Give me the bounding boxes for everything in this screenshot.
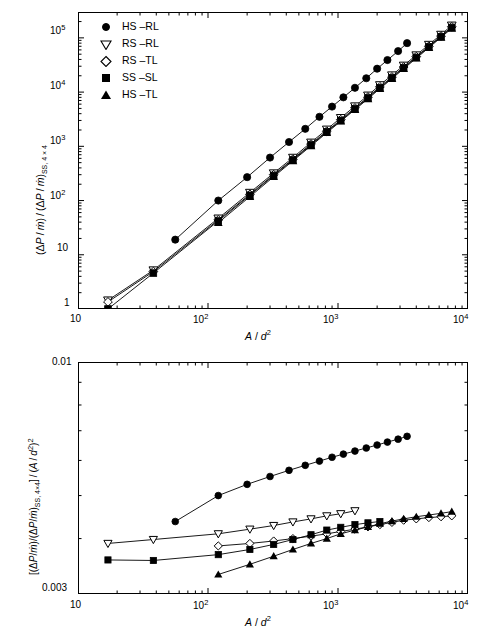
series-SSSL — [105, 518, 383, 563]
bottom-xtick-0: 10 — [70, 600, 81, 610]
legend-label-3: SS –SL — [122, 71, 158, 83]
filled-circle-icon — [100, 21, 112, 33]
bottom-xtick-2: 103 — [323, 598, 338, 611]
legend-label-0: HS –RL — [122, 20, 159, 32]
legend-row-2: RS –TL — [100, 52, 210, 69]
top-xtick-3: 104 — [453, 312, 468, 325]
bottom-xtick-1: 102 — [193, 598, 208, 611]
open-diamond-icon — [100, 55, 112, 67]
bottom-plot-svg — [78, 362, 468, 594]
bottom-yaxis-label: [(ΔP/ṁ)/(ΔP/ṁ)SS, 4×4] / (A / d2)2 — [26, 438, 41, 575]
top-ytick-5: 105 — [50, 23, 65, 36]
open-triangle-down-icon — [100, 38, 112, 50]
bottom-xtick-3: 104 — [453, 598, 468, 611]
series-RSRL — [104, 508, 359, 548]
top-yaxis-label: (ΔP / ṁ) / (ΔP / ṁ)SS, 4 × 4 — [34, 145, 48, 255]
bottom-panel: 10 102 103 104 0.003 0.01 A / d2 [(ΔP/ṁ)… — [0, 350, 495, 644]
top-ytick-2: 102 — [50, 188, 65, 201]
top-ytick-3: 103 — [50, 133, 65, 146]
top-ytick-0: 1 — [64, 298, 70, 308]
top-ytick-4: 104 — [50, 78, 65, 91]
top-xtick-2: 103 — [323, 312, 338, 325]
legend-row-3: SS –SL — [100, 69, 210, 86]
top-panel: 10 102 103 104 1 10 102 103 104 105 A / … — [0, 0, 495, 340]
top-ytick-1: 10 — [57, 243, 68, 253]
bottom-xaxis-label: A / d2 — [245, 614, 271, 628]
legend-row-0: HS –RL — [100, 18, 210, 35]
top-xtick-1: 102 — [193, 312, 208, 325]
top-xtick-0: 10 — [70, 314, 81, 324]
bottom-ytick-0: 0.003 — [42, 583, 67, 593]
legend: HS –RL RS –RL RS –TL SS –SL — [100, 18, 210, 103]
legend-row-4: HS –TL — [100, 86, 210, 103]
bottom-ytick-1: 0.01 — [52, 357, 71, 367]
top-xaxis-label: A / d2 — [245, 328, 271, 342]
legend-label-2: RS –TL — [122, 54, 158, 66]
series-HSRL — [172, 433, 411, 525]
legend-row-1: RS –RL — [100, 35, 210, 52]
filled-square-icon — [100, 72, 112, 84]
figure-root: 10 102 103 104 1 10 102 103 104 105 A / … — [0, 0, 495, 644]
legend-label-4: HS –TL — [122, 88, 158, 100]
filled-triangle-up-icon — [100, 89, 112, 101]
legend-label-1: RS –RL — [122, 37, 159, 49]
